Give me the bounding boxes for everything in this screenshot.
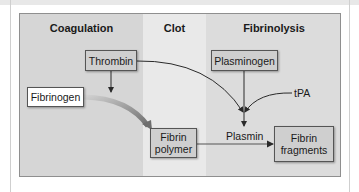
- node-plasminogen-label: Plasminogen: [214, 55, 275, 67]
- node-fibrin-fragments: Fibrin fragments: [274, 126, 334, 162]
- node-thrombin-label: Thrombin: [89, 55, 133, 67]
- node-fibrin-fragments-line1: Fibrin: [291, 132, 317, 144]
- node-fibrin-polymer: Fibrin polymer: [150, 128, 197, 158]
- node-fibrin-polymer-line2: polymer: [155, 143, 192, 155]
- node-fibrin-fragments-line2: fragments: [281, 144, 328, 156]
- node-fibrinogen-label: Fibrinogen: [31, 91, 81, 103]
- node-fibrin-polymer-line1: Fibrin: [160, 131, 186, 143]
- arrow-tpa-to-plasmin: [245, 93, 292, 112]
- node-fibrinogen: Fibrinogen: [27, 87, 84, 107]
- node-thrombin: Thrombin: [85, 50, 137, 71]
- node-plasminogen: Plasminogen: [211, 50, 278, 71]
- label-plasmin: Plasmin: [226, 130, 263, 142]
- arrow-fibrinogen-to-polymer: [84, 97, 148, 126]
- label-tpa: tPA: [294, 87, 310, 99]
